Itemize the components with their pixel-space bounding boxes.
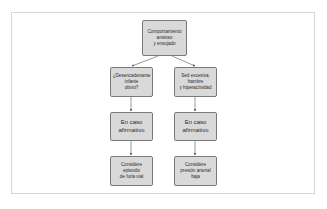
node-left-condition: En caso afirmativo xyxy=(110,112,153,141)
diagram-canvas: Comportamiento ansioso y ensujado ¿Desen… xyxy=(0,0,327,209)
node-right-result: Considere presión arterial baja xyxy=(174,156,217,186)
node-left-result: Considere episodio de furia vial xyxy=(110,156,153,186)
node-root: Comportamiento ansioso y ensujado xyxy=(142,20,187,56)
node-right-condition: En caso afirmativo xyxy=(174,112,217,141)
node-left-question: ¿Desencadenante infante obvio? xyxy=(110,67,153,97)
node-right-question: Sed excesiva, hambre y hiperactividad xyxy=(174,67,217,97)
